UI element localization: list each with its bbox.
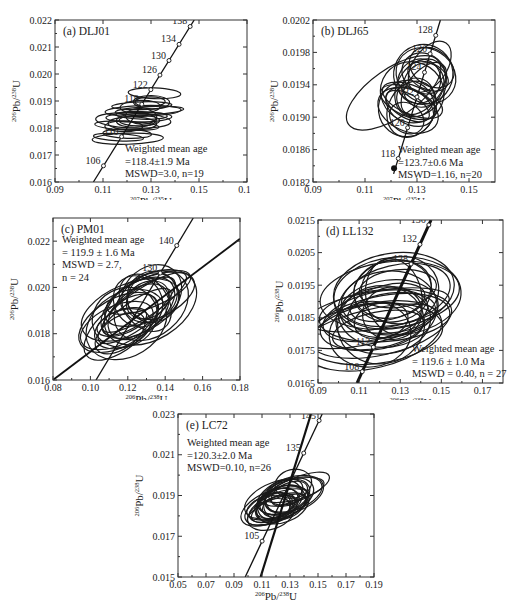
concordia-age-marker — [302, 451, 306, 455]
y-tick-label: 0.019 — [153, 490, 176, 501]
panel-title: (e) LC72 — [186, 419, 228, 432]
x-tick-label: 0.15 — [309, 579, 327, 590]
concordia-age-label: 138 — [172, 15, 187, 26]
y-axis-label: 206Pb/238U — [10, 80, 22, 122]
concordia-panel-b: 1181201221241261280.090.110.130.150.0182… — [250, 0, 507, 200]
chart-svg: 1301400.080.100.120.140.160.180.0160.018… — [0, 190, 250, 400]
chart-svg: 1181201221241261280.090.110.130.150.0182… — [250, 0, 507, 200]
annotation-line: MSWD = 2.7, — [62, 259, 122, 270]
weighted-mean-annotation: Weighted mean age= 119.6 ± 1.0 MaMSWD = … — [412, 343, 506, 379]
y-tick-label: 0.0194 — [283, 79, 311, 90]
y-tick-label: 0.0190 — [283, 112, 311, 123]
y-tick-label: 0.018 — [28, 328, 51, 339]
concordia-age-label: 108 — [344, 361, 359, 372]
error-ellipses — [69, 253, 210, 374]
y-axis: 0.0160.0180.0200.022 — [28, 236, 241, 386]
panel-title: (a) DLJ01 — [63, 25, 110, 38]
concordia-age-label: 130 — [151, 50, 166, 61]
concordia-age-label: 122 — [133, 79, 148, 90]
concordia-panel-a: 1061101181221261301341380.090.110.130.15… — [0, 0, 250, 200]
concordia-age-marker — [177, 42, 181, 46]
y-tick-label: 0.0165 — [288, 378, 316, 389]
error-ellipse — [367, 69, 446, 148]
chart-svg: 1081121281321360.090.110.130.150.170.016… — [250, 190, 507, 400]
x-tick-label: 0.11 — [351, 385, 368, 396]
x-tick-label: 0.16 — [194, 382, 212, 393]
x-tick-label: 0.18 — [231, 382, 249, 393]
y-tick-label: 0.0195 — [288, 280, 316, 291]
concordia-age-marker — [415, 95, 419, 99]
y-tick-label: 0.023 — [153, 409, 176, 420]
x-tick-label: 0.17 — [337, 579, 355, 590]
concordia-panel-d: 1081121281321360.090.110.130.150.170.016… — [250, 190, 507, 400]
x-axis-label: 206Pb/238U — [255, 590, 297, 602]
y-axis-label: 206Pb/238U — [273, 280, 285, 322]
concordia-age-label: 118 — [381, 148, 396, 159]
concordia-age-marker — [149, 88, 153, 92]
concordia-age-marker — [434, 33, 438, 37]
y-tick-label: 0.019 — [30, 96, 53, 107]
x-tick-label: 0.09 — [225, 579, 243, 590]
y-tick-label: 0.017 — [153, 531, 176, 542]
concordia-age-label: 122 — [399, 86, 414, 97]
y-axis-label: 206Pb/238U — [8, 278, 20, 320]
y-tick-label: 0.0198 — [283, 47, 311, 58]
concordia-age-marker — [371, 345, 375, 349]
concordia-age-marker — [158, 73, 162, 77]
weighted-mean-annotation: Weighted mean age=118.4±1.9 MaMSWD=3.0, … — [125, 143, 208, 179]
concordia-age-marker — [422, 70, 426, 74]
concordia-age-label: 130 — [142, 262, 157, 273]
concordia-age-label: 110 — [104, 126, 119, 137]
y-tick-label: 0.020 — [28, 282, 51, 293]
y-tick-label: 0.0175 — [288, 345, 316, 356]
concordia-age-marker — [406, 126, 410, 130]
concordia-age-marker — [158, 271, 162, 275]
concordia-age-label: 106 — [85, 155, 100, 166]
concordia-age-marker — [120, 135, 124, 139]
x-tick-label: 0.13 — [391, 385, 409, 396]
concordia-age-label: 136 — [411, 214, 426, 225]
concordia-age-marker — [188, 24, 192, 28]
y-tick-label: 0.0205 — [288, 247, 316, 258]
y-axis-label: 206Pb/238U — [268, 80, 280, 122]
y-tick-label: 0.017 — [30, 150, 53, 161]
panel-title: (d) LL132 — [326, 225, 374, 238]
y-axis: 0.01820.01860.01900.01940.01980.0202 — [283, 15, 496, 188]
x-tick-label: 0.07 — [197, 579, 215, 590]
concordia-age-marker — [418, 242, 422, 246]
concordia-age-label: 126 — [142, 64, 157, 75]
concordia-age-marker — [175, 244, 179, 248]
annotation-line: MSWD=1.16, n=20 — [398, 169, 482, 180]
concordia-age-label: 132 — [402, 233, 417, 244]
panel-title: (b) DLJ65 — [321, 25, 369, 38]
annotation-line: =123.7±0.6 Ma — [398, 157, 463, 168]
annotation-line: Weighted mean age — [125, 143, 208, 154]
x-tick-label: 0.12 — [119, 382, 137, 393]
y-tick-label: 0.018 — [30, 123, 53, 134]
y-tick-label: 0.020 — [30, 69, 53, 80]
y-tick-label: 0.0215 — [288, 215, 316, 226]
x-tick-label: 0.14 — [156, 382, 174, 393]
concordia-age-marker — [427, 223, 431, 227]
concordia-age-marker — [101, 164, 105, 168]
concordia-age-marker — [391, 165, 397, 171]
annotation-line: = 119.6 ± 1.0 Ma — [412, 356, 485, 367]
x-tick-label: 0.10 — [82, 382, 100, 393]
y-tick-label: 0.0182 — [283, 177, 311, 188]
concordia-age-label: 120 — [390, 117, 405, 128]
x-axis-label: 206Pb/238U — [389, 396, 431, 400]
y-tick-label: 0.016 — [28, 375, 51, 386]
concordia-age-label: 105 — [244, 530, 259, 541]
y-tick-label: 0.0185 — [288, 312, 316, 323]
x-tick-label: 0.17 — [474, 385, 492, 396]
y-tick-label: 0.0202 — [283, 15, 311, 26]
annotation-line: MSWD=0.10, n=26 — [187, 462, 271, 473]
concordia-age-label: 128 — [393, 253, 408, 264]
concordia-age-marker — [409, 262, 413, 266]
concordia-age-marker — [428, 52, 432, 56]
annotation-line: Weighted mean age — [62, 234, 145, 245]
concordia-age-label: 124 — [406, 61, 421, 72]
concordia-age-marker — [317, 419, 321, 423]
concordia-age-label: 145 — [301, 410, 316, 421]
x-axis-label: 206Pb/238U — [125, 393, 167, 400]
